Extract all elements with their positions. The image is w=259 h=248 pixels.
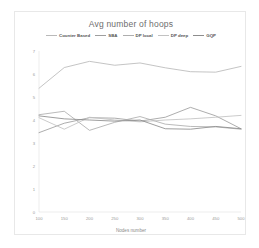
legend-label: DP local [136,33,153,38]
x-axis: 100150200250300350400450500 [36,212,246,221]
y-tick-label: 1 [33,187,36,192]
legend-swatch-icon [158,35,169,36]
y-tick-label: 0 [33,210,36,215]
x-tick-label: 500 [238,216,246,221]
legend-label: Counter Based [59,33,90,38]
line-chart-svg: 01234567 100150200250300350400450500 Nod… [15,45,247,236]
legend-swatch-icon [95,35,106,36]
legend-item-gqp[interactable]: GQP [193,33,216,38]
legend-item-counter-based[interactable]: Counter Based [46,33,90,38]
series-line-counter-based [39,61,241,88]
legend-label: SBA [108,33,117,38]
x-tick-label: 300 [137,216,145,221]
x-tick-label: 400 [187,216,195,221]
x-tick-label: 200 [86,216,94,221]
legend-swatch-icon [193,35,204,36]
y-axis: 01234567 [33,49,39,215]
plot-area: 01234567 100150200250300350400450500 Nod… [15,45,247,236]
chart-title: Avg number of hoops [15,19,247,29]
legend-label: GQP [206,33,216,38]
y-tick-label: 5 [33,95,36,100]
y-tick-label: 2 [33,164,36,169]
y-tick-label: 7 [33,49,36,54]
x-tick-label: 350 [162,216,170,221]
chart-card: Avg number of hoops Counter BasedSBADP l… [14,11,246,235]
legend-label: DP deep [171,33,189,38]
chart-legend: Counter BasedSBADP localDP deepGQP [15,33,247,38]
series-lines [39,61,241,132]
x-tick-label: 150 [61,216,69,221]
y-tick-label: 4 [33,118,36,123]
x-axis-title: Nodes number [116,228,147,233]
legend-item-dp-deep[interactable]: DP deep [158,33,189,38]
legend-item-sba[interactable]: SBA [95,33,117,38]
y-tick-label: 3 [33,141,36,146]
x-tick-label: 250 [111,216,119,221]
y-tick-label: 6 [33,72,36,77]
x-tick-label: 100 [36,216,44,221]
legend-swatch-icon [46,35,57,36]
x-tick-label: 450 [212,216,220,221]
legend-swatch-icon [123,35,134,36]
legend-item-dp-local[interactable]: DP local [123,33,153,38]
